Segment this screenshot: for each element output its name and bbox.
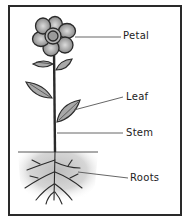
label-stem: Stem (126, 127, 153, 138)
label-leaf: Leaf (126, 91, 148, 102)
flower-head (33, 17, 76, 57)
plant-illustration (0, 0, 184, 218)
stem (54, 50, 55, 152)
soil (18, 152, 98, 205)
label-petal: Petal (123, 30, 149, 41)
label-roots: Roots (130, 172, 159, 183)
